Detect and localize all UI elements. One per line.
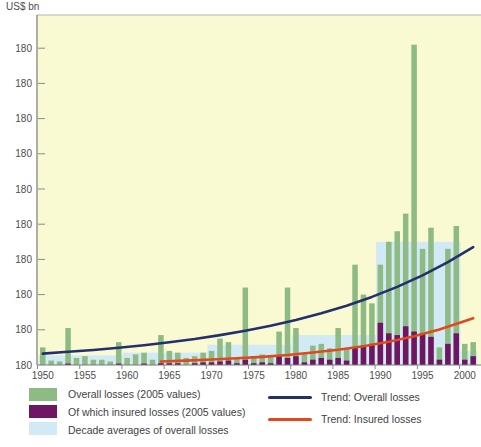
overall-bar-1954 (74, 358, 80, 365)
x-tick-label-1965: 1965 (158, 370, 181, 381)
insured-bar-2000 (462, 360, 468, 365)
trend-overall-line-swatch (268, 396, 312, 399)
insured-bar-1987 (352, 347, 358, 365)
overall-bar-1960 (124, 358, 129, 365)
overall-bar-1963 (150, 360, 156, 365)
x-tick-label-1990: 1990 (369, 370, 392, 381)
overall-losses-legend-label: Overall losses (2005 values) (68, 388, 200, 400)
insured-bar-1997 (437, 360, 443, 365)
overall-bar-1956 (91, 360, 97, 365)
decade-averages-swatch (29, 422, 57, 435)
overall-bar-1959 (116, 342, 122, 365)
insured-bar-1980 (293, 356, 299, 365)
insured-bar-1999 (454, 333, 460, 365)
trend-insured-line-swatch (268, 418, 312, 421)
overall-losses-swatch (29, 388, 57, 401)
insured-bar-1998 (445, 344, 451, 365)
insured-bar-1988 (361, 346, 367, 365)
insured-bar-1979 (285, 358, 291, 365)
insured-bar-1978 (276, 356, 282, 365)
overall-bar-1974 (243, 288, 249, 365)
overall-bar-1979 (285, 288, 291, 365)
overall-bar-1951 (48, 361, 54, 365)
insured-bar-1972 (226, 361, 232, 365)
insured-bar-1982 (310, 360, 316, 365)
overall-bar-1957 (99, 360, 105, 365)
overall-bar-1955 (82, 356, 88, 365)
insured-bar-1984 (327, 360, 333, 365)
y-tick-label: 180 (15, 289, 32, 300)
x-tick-label-1975: 1975 (243, 370, 266, 381)
losses-chart-figure: US$ bn 180180180180180180180180180180195… (0, 0, 481, 447)
insured-bar-1995 (420, 333, 426, 365)
x-tick-label-1980: 1980 (285, 370, 308, 381)
insured-bar-1985 (335, 358, 341, 365)
insured-losses-legend-label: Of which insured losses (2005 values) (68, 406, 245, 418)
x-tick-label-1970: 1970 (200, 370, 223, 381)
x-tick-label-1985: 1985 (327, 370, 350, 381)
overall-bar-1961 (133, 354, 139, 365)
y-tick-label: 180 (15, 148, 32, 159)
insured-bar-1989 (369, 344, 375, 365)
insured-bar-1993 (403, 326, 409, 365)
y-tick-label: 180 (15, 78, 32, 89)
y-tick-label: 180 (15, 254, 32, 265)
y-tick-label: 180 (15, 324, 32, 335)
trend-insured-legend-label: Trend: Insured losses (321, 413, 422, 425)
y-tick-label: 180 (15, 219, 32, 230)
insured-bar-2001 (470, 356, 476, 365)
x-tick-label-2000: 2000 (454, 370, 477, 381)
insured-losses-swatch (29, 405, 57, 418)
overall-bar-1994 (411, 45, 417, 365)
y-tick-label: 180 (15, 43, 32, 54)
trend-overall-legend-label: Trend: Overall losses (321, 391, 420, 403)
y-tick-label: 180 (15, 184, 32, 195)
x-tick-label-1950: 1950 (32, 370, 55, 381)
insured-bar-1986 (344, 361, 350, 365)
overall-bar-1950 (40, 347, 46, 365)
overall-bar-1971 (217, 339, 223, 365)
insured-bar-1991 (386, 333, 392, 365)
insured-bar-1974 (243, 360, 249, 365)
insured-bar-1996 (428, 337, 434, 365)
y-tick-label: 180 (15, 113, 32, 124)
y-tick-label: 180 (15, 360, 32, 371)
insured-bar-1983 (319, 358, 325, 365)
decade-averages-legend-label: Decade averages of overall losses (68, 424, 229, 436)
x-tick-label-1995: 1995 (411, 370, 434, 381)
overall-bar-1962 (141, 353, 147, 365)
x-tick-label-1960: 1960 (116, 370, 139, 381)
overall-bar-1966 (175, 353, 181, 365)
loss-chart-svg: 1801801801801801801801801801801950195519… (0, 0, 481, 385)
overall-bar-1953 (65, 328, 71, 365)
x-tick-label-1955: 1955 (74, 370, 97, 381)
overall-bar-1965 (167, 351, 173, 365)
